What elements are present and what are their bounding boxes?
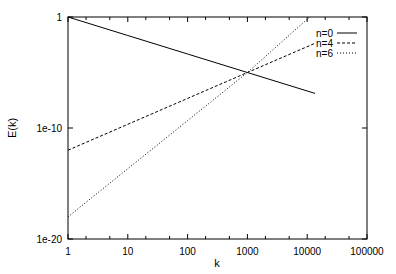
x-tick-label: 100000 (350, 246, 384, 257)
x-tick-label: 10 (122, 246, 134, 257)
x-tick-label: 1 (65, 246, 71, 257)
legend-label-n6: n=6 (316, 48, 333, 59)
plot-lines (68, 17, 315, 217)
loglog-chart: 110100100010000100000 11e-101e-20 k E(k)… (0, 0, 396, 274)
x-tick-label: 10000 (293, 246, 321, 257)
series-line-n6 (68, 17, 310, 217)
series-line-n0 (68, 17, 315, 93)
y-axis-label: E(k) (6, 118, 18, 138)
x-axis-tick-labels: 110100100010000100000 (65, 246, 384, 257)
x-axis-label: k (214, 257, 220, 269)
y-tick-label: 1e-20 (36, 234, 62, 245)
x-tick-label: 1000 (236, 246, 259, 257)
series-line-n4 (68, 43, 315, 150)
y-tick-label: 1 (56, 12, 62, 23)
y-axis-tick-labels: 11e-101e-20 (36, 12, 62, 245)
x-tick-label: 100 (179, 246, 196, 257)
y-tick-label: 1e-10 (36, 123, 62, 134)
legend: n=0 n=4 n=6 (316, 28, 357, 59)
